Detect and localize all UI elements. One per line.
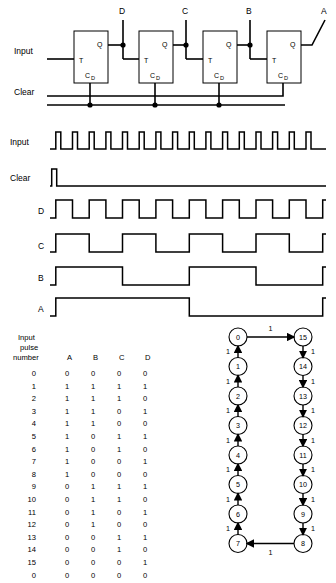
state-node-label: 7 xyxy=(236,539,240,548)
state-edge-label-right-2: 1 xyxy=(311,406,315,415)
table-header-line-2: number xyxy=(13,353,39,362)
table-column-header-d: D xyxy=(145,353,151,362)
table-cell-a: 1 xyxy=(65,445,69,454)
table-row: 110101 xyxy=(28,508,147,517)
flipflop-d-cd-sub: D xyxy=(91,75,95,81)
circuit-output-label-c: C xyxy=(182,6,188,16)
table-cell-b: 1 xyxy=(91,419,95,428)
table-cell-b: 1 xyxy=(91,394,95,403)
state-node-label: 5 xyxy=(236,480,240,489)
flipflop-a-cd-sub: D xyxy=(284,75,288,81)
state-edge-label-bottom: 1 xyxy=(269,548,273,557)
table-cell-d: 1 xyxy=(143,432,147,441)
state-node-label: 9 xyxy=(301,510,305,519)
circuit-output-label-b: B xyxy=(246,6,252,16)
table-row: 140010 xyxy=(28,545,148,554)
table-cell-pulse: 14 xyxy=(28,545,36,554)
table-cell-c: 0 xyxy=(117,520,121,529)
table-cell-c: 1 xyxy=(117,495,121,504)
table-row: 21110 xyxy=(32,394,147,403)
circuit-output-label-a: A xyxy=(321,6,327,16)
table-cell-d: 0 xyxy=(143,445,147,454)
state-node-label: 3 xyxy=(236,421,240,430)
flipflop-a-t-label: T xyxy=(272,57,277,64)
flipflop-c-q-label: Q xyxy=(162,41,168,49)
table-cell-b: 1 xyxy=(91,407,95,416)
table-cell-c: 1 xyxy=(117,432,121,441)
state-edge-label-left-0: 1 xyxy=(226,347,230,356)
state-edge-label-right-3: 1 xyxy=(311,436,315,445)
state-node-right-13: 13 xyxy=(294,387,312,405)
table-cell-d: 0 xyxy=(143,495,147,504)
state-node-right-9: 9 xyxy=(294,505,312,523)
table-row: 120100 xyxy=(28,520,148,529)
timing-label-d: D xyxy=(38,206,44,216)
table-cell-c: 0 xyxy=(117,369,121,378)
table-cell-pulse: 12 xyxy=(28,520,36,529)
table-cell-a: 1 xyxy=(65,394,69,403)
table-cell-d: 0 xyxy=(143,419,147,428)
table-cell-pulse: 8 xyxy=(32,470,36,479)
table-cell-a: 0 xyxy=(65,369,69,378)
figure-root: Input Clear T Q C D D T Q C xyxy=(0,0,336,583)
waveform-clear xyxy=(50,169,326,186)
flipflop-b-cd-sub: D xyxy=(220,75,224,81)
waveform-input xyxy=(50,132,326,149)
table-cell-a: 1 xyxy=(65,470,69,479)
table-row: 150001 xyxy=(28,558,148,567)
state-node-label: 0 xyxy=(236,333,240,342)
table-cell-a: 1 xyxy=(65,407,69,416)
table-row: 31101 xyxy=(32,407,147,416)
table-cell-b: 0 xyxy=(91,369,95,378)
figure-svg: Input Clear T Q C D D T Q C xyxy=(0,0,336,583)
flipflop-a-q-label: Q xyxy=(290,41,296,49)
state-node-left-4: 4 xyxy=(229,446,247,464)
table-cell-pulse: 15 xyxy=(28,558,36,567)
table-cell-pulse: 5 xyxy=(32,432,36,441)
table-row: 71001 xyxy=(32,457,147,466)
state-edge-label-right-4: 1 xyxy=(311,465,315,474)
state-nodes: 0123456715141312111098 xyxy=(229,328,312,553)
table-cell-d: 0 xyxy=(143,545,147,554)
junction-dot-clear-c xyxy=(152,102,157,107)
table-cell-b: 0 xyxy=(91,445,95,454)
table-cell-a: 0 xyxy=(65,571,69,580)
table-cell-b: 0 xyxy=(91,470,95,479)
state-table: Input pulse number A B C D 0000011111211… xyxy=(13,333,151,580)
table-cell-d: 0 xyxy=(143,520,147,529)
state-node-label: 2 xyxy=(236,392,240,401)
output-tap-a xyxy=(301,20,325,45)
table-cell-c: 1 xyxy=(117,394,121,403)
timing-label-b: B xyxy=(38,273,44,283)
waveform-a xyxy=(50,298,326,316)
table-cell-c: 0 xyxy=(117,407,121,416)
table-row: 90111 xyxy=(32,482,147,491)
table-row: 61010 xyxy=(32,445,147,454)
table-cell-a: 0 xyxy=(65,520,69,529)
table-cell-d: 1 xyxy=(143,482,147,491)
table-cell-c: 0 xyxy=(117,457,121,466)
circuit-output-label-d: D xyxy=(119,6,125,16)
table-cell-pulse: 9 xyxy=(32,482,36,491)
state-edge-label-right-5: 1 xyxy=(311,495,315,504)
junction-dot-clear-b xyxy=(216,102,221,107)
table-cell-b: 0 xyxy=(91,432,95,441)
timing-label-c: C xyxy=(38,241,44,251)
table-cell-pulse: 1 xyxy=(32,382,36,391)
state-node-right-11: 11 xyxy=(294,446,312,464)
timing-diagram: Input Clear D C B A xyxy=(10,132,326,316)
state-node-left-2: 2 xyxy=(229,387,247,405)
table-cell-b: 0 xyxy=(91,558,95,567)
timing-label-clear: Clear xyxy=(10,173,30,183)
flipflop-d-q-label: Q xyxy=(97,41,103,49)
timing-label-input: Input xyxy=(10,137,30,147)
circuit-diagram: Input Clear T Q C D D T Q C xyxy=(14,6,327,108)
state-node-left-6: 6 xyxy=(229,505,247,523)
flipflop-a-clear-wire xyxy=(47,83,283,96)
state-node-left-5: 5 xyxy=(229,476,247,494)
state-node-label: 13 xyxy=(299,392,307,401)
state-edge-label-top: 1 xyxy=(269,324,273,333)
table-cell-c: 1 xyxy=(117,482,121,491)
state-edge-label-left-3: 1 xyxy=(226,436,230,445)
table-cell-c: 0 xyxy=(117,419,121,428)
